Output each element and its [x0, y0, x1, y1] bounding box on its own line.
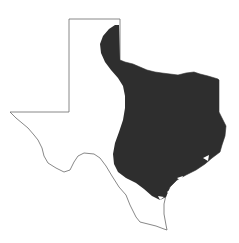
- range-map: [0, 0, 239, 243]
- texas-map: [0, 0, 239, 243]
